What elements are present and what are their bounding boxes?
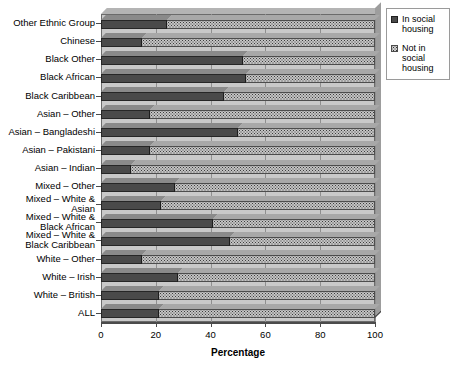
legend-swatch-dark-icon — [391, 16, 398, 23]
bar-row — [101, 38, 375, 47]
bar-segment-not-in-social-housing — [213, 219, 375, 228]
y-axis-label-line: ALL — [0, 308, 95, 318]
y-axis-label: ALL — [0, 308, 95, 318]
y-axis-tick — [96, 96, 101, 97]
bar-row — [101, 165, 375, 174]
x-axis-tick-label: 100 — [355, 329, 395, 340]
y-axis-label-line: White – Irish — [0, 272, 95, 282]
bar-segment-in-social-housing — [101, 38, 142, 47]
bar-segment-in-social-housing — [101, 237, 230, 246]
bar-row — [101, 92, 375, 101]
x-axis-tick — [375, 322, 376, 327]
gridline — [375, 14, 376, 322]
y-axis-label: Chinese — [0, 36, 95, 46]
y-axis-label-line: Chinese — [0, 36, 95, 46]
bar-segment-in-social-housing — [101, 201, 161, 210]
y-axis-tick — [96, 222, 101, 223]
y-axis-label-line: Mixed – Other — [0, 181, 95, 191]
x-axis-tick-label: 60 — [245, 329, 285, 340]
legend-label: Not in social housing — [402, 43, 445, 73]
y-axis-label: Black African — [0, 72, 95, 82]
y-axis-label: Asian – Pakistani — [0, 145, 95, 155]
legend-swatch-hatched-icon — [391, 45, 398, 52]
y-axis-label: Mixed – Other — [0, 181, 95, 191]
bar-segment-not-in-social-housing — [161, 201, 375, 210]
y-axis-tick — [96, 59, 101, 60]
y-axis-label-line: Asian – Other — [0, 109, 95, 119]
bar-row — [101, 237, 375, 246]
y-axis-tick — [96, 41, 101, 42]
legend-item-in-social-housing: In social housing — [391, 14, 445, 34]
bar-row — [101, 20, 375, 29]
y-axis-tick — [96, 114, 101, 115]
bar-segment-in-social-housing — [101, 165, 131, 174]
x-axis-tick-label: 80 — [300, 329, 340, 340]
bar-segment-not-in-social-housing — [131, 165, 375, 174]
y-axis-label: Mixed – White &Black Caribbean — [0, 230, 95, 250]
bar-row — [101, 56, 375, 65]
bar-row — [101, 309, 375, 318]
y-axis-label: White – Irish — [0, 272, 95, 282]
x-axis-tick — [156, 322, 157, 327]
bar-segment-not-in-social-housing — [142, 255, 375, 264]
bar-segment-in-social-housing — [101, 183, 175, 192]
y-axis-label: Asian – Bangladeshi — [0, 127, 95, 137]
bar-row — [101, 128, 375, 137]
bar-segment-in-social-housing — [101, 309, 159, 318]
chart-legend: In social housing Not in social housing — [386, 8, 450, 80]
y-axis-tick — [96, 204, 101, 205]
bar-row — [101, 255, 375, 264]
stacked-bar-chart: Other Ethnic GroupChineseBlack OtherBlac… — [0, 0, 455, 368]
bar-segment-not-in-social-housing — [159, 309, 375, 318]
bar-segment-not-in-social-housing — [175, 183, 375, 192]
y-axis-label-line: Black Other — [0, 54, 95, 64]
y-axis-tick — [96, 150, 101, 151]
y-axis-label-line: Other Ethnic Group — [0, 18, 95, 28]
bars-container — [101, 14, 375, 322]
legend-item-not-in-social-housing: Not in social housing — [391, 43, 445, 73]
y-axis-tick — [96, 23, 101, 24]
y-axis-label: White – Other — [0, 254, 95, 264]
bar-row — [101, 219, 375, 228]
bar-segment-not-in-social-housing — [238, 128, 375, 137]
bar-segment-in-social-housing — [101, 74, 246, 83]
y-axis-tick — [96, 168, 101, 169]
bar-segment-in-social-housing — [101, 146, 150, 155]
bar-segment-in-social-housing — [101, 219, 213, 228]
x-axis-title: Percentage — [101, 347, 375, 358]
y-axis-label-line: Asian – Bangladeshi — [0, 127, 95, 137]
y-axis-label: White – British — [0, 290, 95, 300]
bar-segment-not-in-social-housing — [230, 237, 375, 246]
bar-segment-not-in-social-housing — [224, 92, 375, 101]
legend-label: In social housing — [402, 14, 445, 34]
y-axis-tick — [96, 313, 101, 314]
y-axis-tick — [96, 259, 101, 260]
bar-segment-not-in-social-housing — [243, 56, 375, 65]
bar-row — [101, 291, 375, 300]
bar-row — [101, 273, 375, 282]
y-axis-label-line: Black Caribbean — [0, 91, 95, 101]
y-axis-label: Black Other — [0, 54, 95, 64]
y-axis-label: Asian – Indian — [0, 163, 95, 173]
bar-row — [101, 74, 375, 83]
x-axis-tick — [265, 322, 266, 327]
bar-row — [101, 110, 375, 119]
bar-row — [101, 201, 375, 210]
x-axis-tick — [101, 322, 102, 327]
x-axis-tick-label: 20 — [136, 329, 176, 340]
bar-segment-in-social-housing — [101, 291, 159, 300]
y-axis-tick — [96, 186, 101, 187]
y-axis-label-line: Black African — [0, 72, 95, 82]
bar-segment-in-social-housing — [101, 110, 150, 119]
bar-segment-not-in-social-housing — [159, 291, 375, 300]
y-axis-labels: Other Ethnic GroupChineseBlack OtherBlac… — [0, 14, 95, 322]
y-axis-tick — [96, 295, 101, 296]
x-axis-line — [101, 322, 375, 324]
bar-row — [101, 183, 375, 192]
y-axis-label-line: Asian – Pakistani — [0, 145, 95, 155]
y-axis-label-line: White – British — [0, 290, 95, 300]
bar-row — [101, 146, 375, 155]
y-axis-tick — [96, 132, 101, 133]
y-axis-tick — [96, 277, 101, 278]
y-axis-label: Asian – Other — [0, 109, 95, 119]
